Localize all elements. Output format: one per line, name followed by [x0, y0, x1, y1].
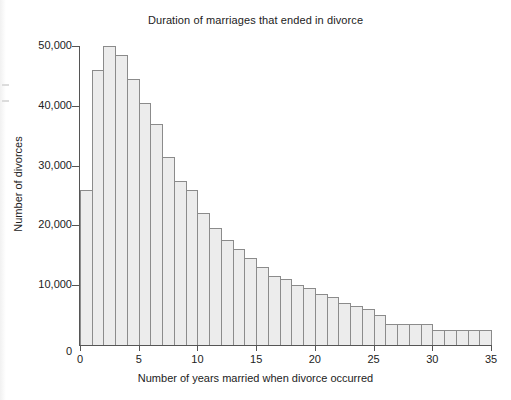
- y-tick-label: 30,000: [8, 159, 72, 171]
- x-tick-mark: [139, 345, 140, 351]
- y-tick-mark: [72, 46, 80, 47]
- x-tick-mark: [80, 345, 81, 351]
- chart-figure: Duration of marriages that ended in divo…: [0, 0, 511, 400]
- y-tick-label: 40,000: [8, 99, 72, 111]
- x-tick-mark: [197, 345, 198, 351]
- x-tick-label: 10: [177, 353, 217, 365]
- histogram-bar: [479, 330, 492, 345]
- chart-title: Duration of marriages that ended in divo…: [0, 14, 511, 26]
- y-tick-mark: [72, 285, 80, 286]
- y-tick-mark: [72, 166, 80, 167]
- x-tick-label: 30: [412, 353, 452, 365]
- scan-speck: [2, 84, 9, 86]
- x-tick-label: 35: [471, 353, 511, 365]
- x-tick-mark: [432, 345, 433, 351]
- y-axis-label: Number of divorces: [12, 94, 24, 274]
- y-tick-mark: [72, 106, 80, 107]
- x-tick-mark: [374, 345, 375, 351]
- x-tick-label: 20: [295, 353, 335, 365]
- x-tick-label: 5: [119, 353, 159, 365]
- x-axis-label: Number of years married when divorce occ…: [0, 372, 511, 384]
- x-axis-line: [79, 345, 491, 346]
- x-tick-mark: [315, 345, 316, 351]
- x-tick-label: 25: [354, 353, 394, 365]
- plot-area: [80, 46, 491, 345]
- x-tick-label: 15: [236, 353, 276, 365]
- y-tick-label: 20,000: [8, 218, 72, 230]
- y-tick-label: 50,000: [8, 39, 72, 51]
- y-tick-mark: [72, 225, 80, 226]
- y-tick-label: 10,000: [8, 278, 72, 290]
- scan-edge-artifact: [0, 0, 6, 400]
- x-tick-mark: [491, 345, 492, 351]
- x-tick-mark: [256, 345, 257, 351]
- x-tick-label: 0: [60, 353, 100, 365]
